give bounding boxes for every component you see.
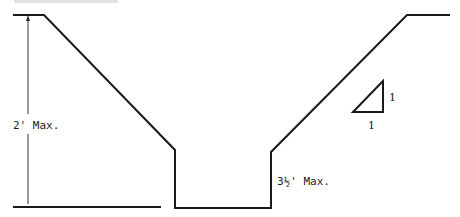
trench-diagram: 2' Max. 3½' Max. 1 1 [0, 0, 460, 217]
slope-run-label: 1 [368, 119, 375, 132]
arrow-up-icon [26, 16, 30, 21]
cutoff-header-text [14, 0, 118, 3]
slope-rise-label: 1 [389, 91, 396, 104]
height-dimension-line [26, 16, 30, 204]
left-height-label: 2' Max. [13, 119, 59, 132]
slope-ratio-indicator: 1 1 [353, 81, 396, 132]
left-bank-profile [14, 15, 175, 208]
slope-triangle-icon [353, 81, 383, 112]
trench-depth-label: 3½' Max. [277, 175, 330, 188]
